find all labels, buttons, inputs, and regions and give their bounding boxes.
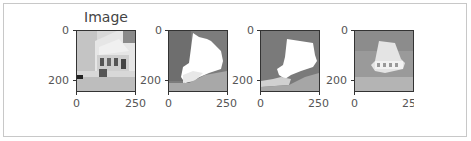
xtick-0: 0 (257, 98, 264, 109)
ytick-0: 0 (247, 25, 254, 36)
xtick-250: 250 (125, 98, 146, 109)
xtick-mark (319, 92, 320, 95)
xtick-0: 0 (73, 98, 80, 109)
xtick-mark (76, 92, 77, 95)
xtick-mark (227, 92, 228, 95)
ytick-200: 200 (48, 75, 69, 86)
ytick-0: 0 (155, 25, 162, 36)
xtick-250-clipped: 25( (402, 98, 414, 109)
xtick-250: 250 (216, 98, 237, 109)
ytick-200: 200 (326, 75, 347, 86)
xtick-mark (260, 92, 261, 95)
image-mask-2 (260, 30, 320, 92)
figure-title: Image (66, 9, 146, 25)
ytick-0: 0 (341, 25, 348, 36)
xtick-mark (135, 92, 136, 95)
ytick-200: 200 (140, 75, 161, 86)
xtick-mark (168, 92, 169, 95)
xtick-mark (354, 92, 355, 95)
ytick-200: 200 (232, 75, 253, 86)
image-overlay (354, 30, 414, 92)
xtick-0: 0 (165, 98, 172, 109)
image-original (76, 30, 136, 92)
xtick-250: 250 (308, 98, 329, 109)
xtick-0: 0 (351, 98, 358, 109)
ytick-0: 0 (62, 25, 69, 36)
image-mask-1 (168, 30, 228, 92)
